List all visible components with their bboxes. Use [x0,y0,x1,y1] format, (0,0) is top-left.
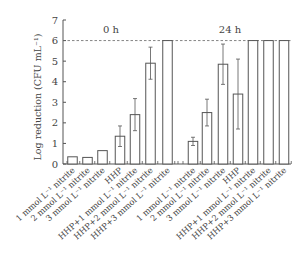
group-label: 24 h [219,24,242,35]
bar [248,41,258,164]
group-label: 0 h [103,24,120,35]
y-tick-label: 6 [52,35,58,46]
y-tick-label: 5 [52,56,58,67]
bar [98,151,108,164]
bar [279,41,289,164]
y-tick-label: 4 [52,76,58,87]
y-tick-label: 3 [52,97,58,108]
bar [68,157,78,164]
y-tick-label: 0 [52,159,58,170]
bar [163,41,173,164]
y-tick-label: 7 [52,15,58,26]
bar [264,41,274,164]
bar [83,157,93,164]
bar-chart: 01234567Log reduction (CFU mL⁻¹)0 h1 mmo… [0,0,303,255]
y-tick-label: 1 [52,138,58,149]
y-axis-label: Log reduction (CFU mL⁻¹) [32,34,43,161]
y-tick-label: 2 [52,117,58,128]
